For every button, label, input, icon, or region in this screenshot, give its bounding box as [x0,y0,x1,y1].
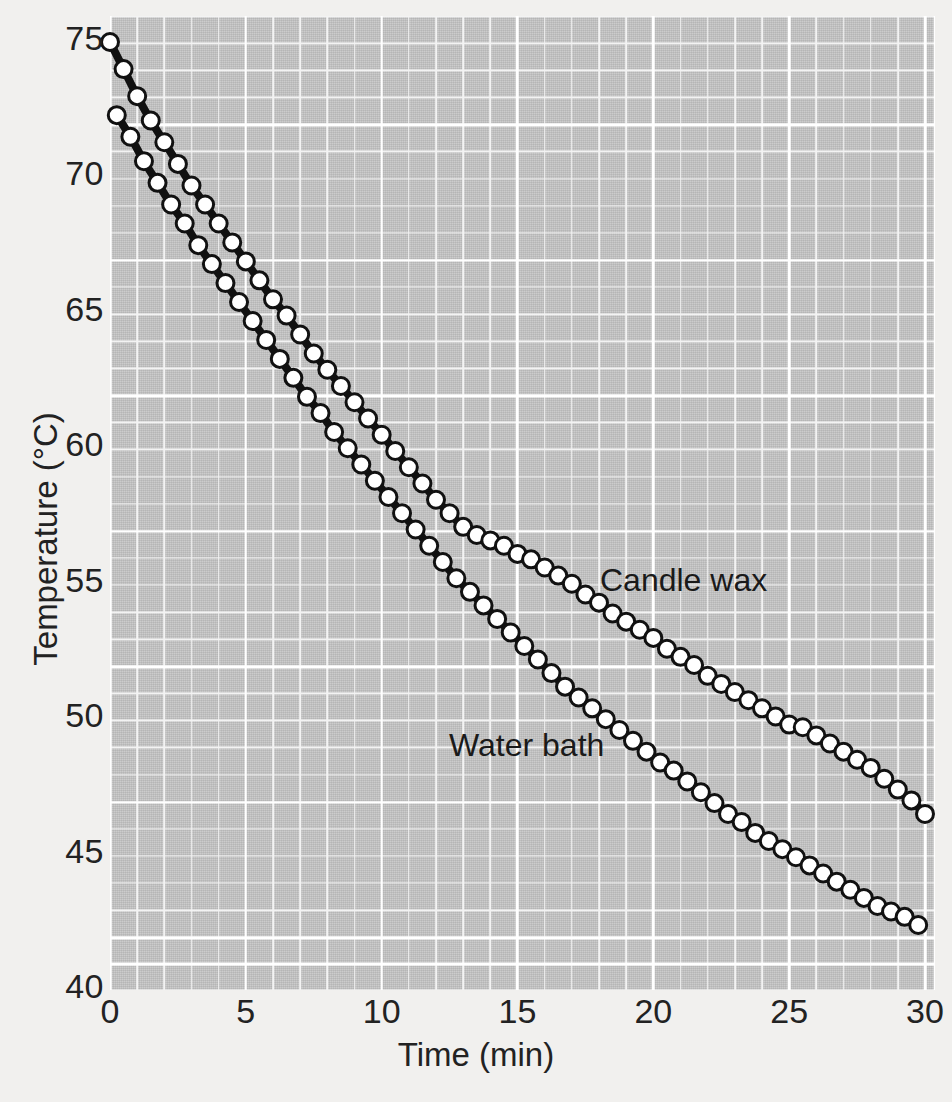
data-point [366,472,383,489]
data-point [251,272,268,289]
data-point [448,570,465,587]
data-point [373,426,390,443]
data-point [298,388,315,405]
data-point [258,331,275,348]
data-point [203,256,220,273]
data-point [387,442,404,459]
data-point [292,326,309,343]
y-tick-45: 45 [46,832,104,871]
data-point [142,112,159,129]
data-point [210,215,227,232]
data-point [543,665,560,682]
data-point [265,291,282,308]
data-point [285,369,302,386]
data-point [271,350,288,367]
data-point [278,307,295,324]
x-tick-10: 10 [363,992,401,1031]
x-tick-0: 0 [101,992,120,1031]
data-point [441,505,458,522]
data-point [461,583,478,600]
data-point [217,275,234,292]
x-tick-25: 25 [770,992,808,1031]
series-water-bath [108,107,926,934]
data-point [428,491,445,508]
data-point [237,253,254,270]
y-tick-50: 50 [46,696,104,735]
data-point [224,234,241,251]
data-point [108,107,125,124]
data-point [102,34,119,51]
x-tick-15: 15 [499,992,537,1031]
data-point [421,537,438,554]
data-point [475,597,492,614]
data-point [360,410,377,427]
x-tick-20: 20 [634,992,672,1031]
data-point [135,153,152,170]
y-tick-65: 65 [46,290,104,329]
series-layer [0,0,952,1102]
data-point [149,174,166,191]
y-tick-40: 40 [46,967,104,1006]
y-axis-title: Temperature (°C) [27,389,65,689]
data-point [353,456,370,473]
data-point [129,88,146,105]
data-point [380,489,397,506]
data-point [312,405,329,422]
data-point [326,424,343,441]
data-point [319,361,336,378]
series-label-candle-wax: Candle wax [600,562,767,599]
series-label-water-bath: Water bath [449,727,604,764]
data-point [190,237,207,254]
data-point [176,215,193,232]
data-point [489,610,506,627]
data-point [414,475,431,492]
x-tick-5: 5 [236,992,255,1031]
data-point [917,805,934,822]
data-point [156,134,173,151]
data-point [903,792,920,809]
data-point [244,312,261,329]
data-point [516,638,533,655]
data-point [305,345,322,362]
chart-figure: 7570656055504540 051015202530 Time (min)… [0,0,952,1102]
data-point [115,61,132,78]
data-point [400,459,417,476]
series-line [110,42,925,814]
data-point [394,505,411,522]
data-point [529,651,546,668]
data-point [346,394,363,411]
data-point [169,155,186,172]
data-point [339,440,356,457]
data-point [407,521,424,538]
data-point [502,624,519,641]
series-candle-wax [102,34,934,823]
x-tick-30: 30 [906,992,944,1031]
data-point [910,916,927,933]
y-tick-75: 75 [46,19,104,58]
y-tick-70: 70 [46,154,104,193]
data-point [197,196,214,213]
data-point [163,196,180,213]
data-point [183,177,200,194]
data-point [122,128,139,145]
x-axis-title: Time (min) [0,1036,952,1074]
data-point [231,294,248,311]
data-point [434,554,451,571]
data-point [332,377,349,394]
